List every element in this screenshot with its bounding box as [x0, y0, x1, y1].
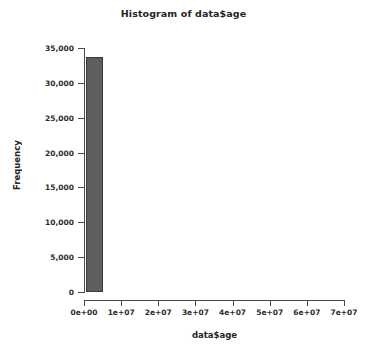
- histogram-plot: Histogram of data$age 05,00010,00015,000…: [0, 0, 367, 354]
- histogram-bar: [86, 57, 103, 292]
- y-axis-line: [84, 48, 85, 293]
- y-tick-label: 35,000: [45, 45, 74, 53]
- y-tick-mark: [78, 257, 84, 258]
- y-tick-label: 15,000: [45, 184, 74, 192]
- y-tick-label: 25,000: [45, 114, 74, 122]
- y-axis-title: Frequency: [10, 120, 24, 210]
- y-tick-mark: [78, 292, 84, 293]
- x-tick-label: 6e+07: [293, 309, 320, 317]
- x-tick-mark: [307, 300, 308, 306]
- x-tick-label: 2e+07: [145, 309, 172, 317]
- y-tick-label: 5,000: [50, 254, 74, 262]
- y-tick-mark: [78, 187, 84, 188]
- chart-title: Histogram of data$age: [0, 8, 367, 19]
- x-tick-label: 4e+07: [219, 309, 246, 317]
- x-tick-label: 7e+07: [330, 309, 357, 317]
- y-tick-mark: [78, 48, 84, 49]
- x-tick-label: 0e+00: [70, 309, 97, 317]
- x-tick-mark: [158, 300, 159, 306]
- x-tick-label: 1e+07: [108, 309, 135, 317]
- x-tick-label: 5e+07: [256, 309, 283, 317]
- x-axis-line: [84, 300, 345, 301]
- y-tick-label: 30,000: [45, 79, 74, 87]
- x-tick-mark: [233, 300, 234, 306]
- y-tick-mark: [78, 153, 84, 154]
- x-axis-title: data$age: [84, 330, 345, 340]
- y-tick-label: 0: [69, 289, 74, 297]
- y-tick-mark: [78, 83, 84, 84]
- x-tick-mark: [344, 300, 345, 306]
- x-tick-mark: [270, 300, 271, 306]
- x-tick-mark: [84, 300, 85, 306]
- y-tick-label: 10,000: [45, 219, 74, 227]
- x-tick-label: 3e+07: [182, 309, 209, 317]
- y-tick-mark: [78, 118, 84, 119]
- y-tick-label: 20,000: [45, 149, 74, 157]
- x-tick-mark: [121, 300, 122, 306]
- x-tick-mark: [195, 300, 196, 306]
- y-tick-mark: [78, 222, 84, 223]
